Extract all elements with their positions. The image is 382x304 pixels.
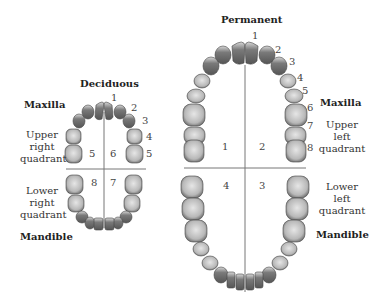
deciduous-tooth-1: 1 xyxy=(111,92,117,103)
deciduous-tooth-5: 5 xyxy=(146,148,152,159)
permanent-tooth-7: 7 xyxy=(307,120,313,131)
lower-left-quadrant-label: Lower left quadrant xyxy=(316,181,368,217)
permanent-mandible-label: Mandible xyxy=(316,229,369,241)
deciduous-arch xyxy=(65,102,146,230)
deciduous-title: Deciduous xyxy=(80,78,139,90)
permanent-tooth-6: 6 xyxy=(307,102,313,113)
permanent-title: Permanent xyxy=(221,14,282,26)
deciduous-tooth-4: 4 xyxy=(146,131,152,142)
quadrant-3: 3 xyxy=(259,180,265,191)
deciduous-tooth-3: 3 xyxy=(142,115,148,126)
deciduous-tooth-2: 2 xyxy=(131,102,137,113)
quadrant-6: 6 xyxy=(110,148,116,159)
quadrant-5: 5 xyxy=(89,148,95,159)
lower-right-quadrant-label: Lower right quadrant xyxy=(20,185,64,221)
quadrant-8: 8 xyxy=(91,177,97,188)
permanent-tooth-3: 3 xyxy=(289,56,295,67)
upper-right-quadrant-label: Upper right quadrant xyxy=(20,129,64,165)
permanent-tooth-1: 1 xyxy=(252,30,258,41)
quadrant-7: 7 xyxy=(110,177,116,188)
quadrant-2: 2 xyxy=(259,141,265,152)
permanent-arch xyxy=(181,42,309,292)
quadrant-1: 1 xyxy=(222,141,228,152)
permanent-tooth-8: 8 xyxy=(307,142,313,153)
deciduous-mandible-label: Mandible xyxy=(20,231,73,243)
permanent-maxilla-label: Maxilla xyxy=(320,97,361,109)
upper-left-quadrant-label: Upper left quadrant xyxy=(316,119,368,155)
permanent-tooth-4: 4 xyxy=(297,72,303,83)
permanent-tooth-5: 5 xyxy=(302,85,308,96)
quadrant-4: 4 xyxy=(223,180,229,191)
deciduous-maxilla-label: Maxilla xyxy=(24,99,65,111)
permanent-tooth-2: 2 xyxy=(275,44,281,55)
